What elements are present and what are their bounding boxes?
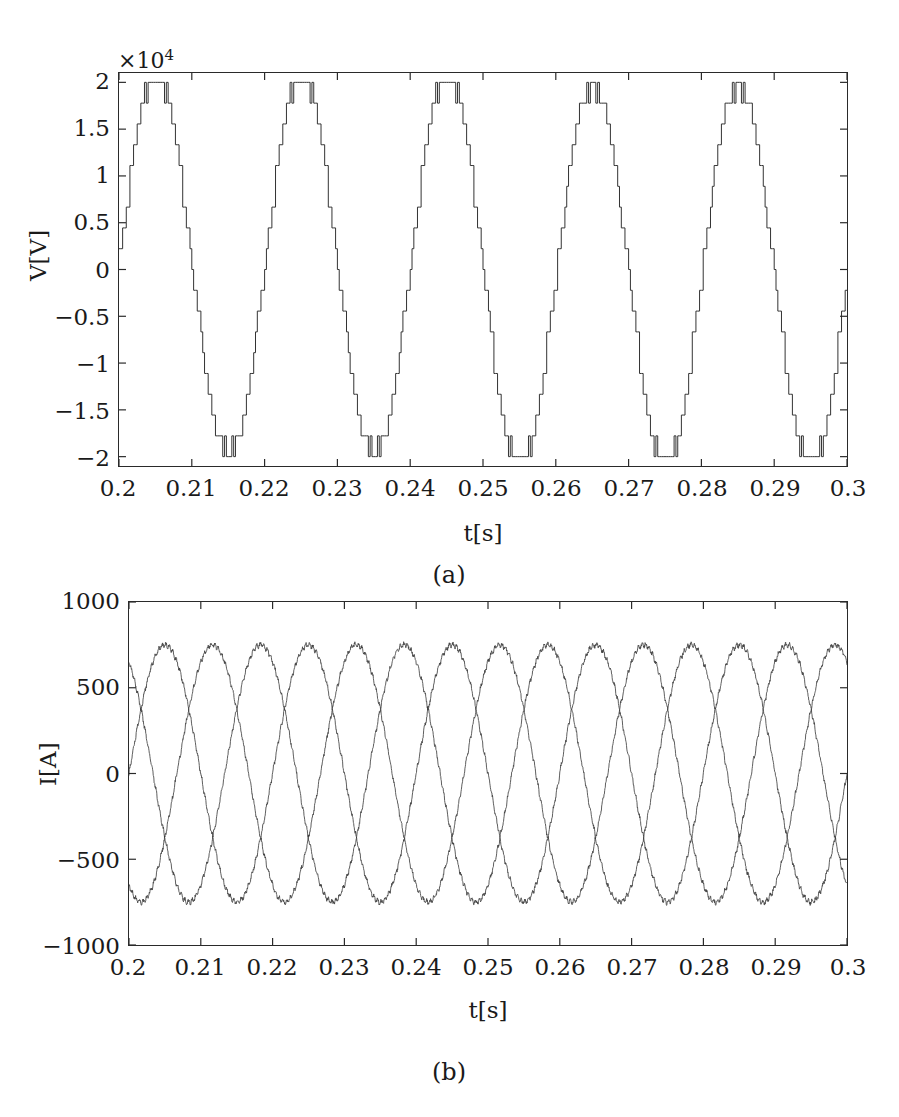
x-tick-label: 0.29 — [749, 477, 800, 500]
x-tick-label: 0.26 — [534, 956, 585, 979]
x-tick-label: 0.2 — [100, 477, 137, 500]
voltage-plot-area — [118, 72, 848, 467]
current-x-axis-title: t[s] — [469, 997, 508, 1023]
x-tick-label: 0.25 — [462, 956, 513, 979]
x-tick-label: 0.28 — [676, 477, 727, 500]
x-tick-label: 0.22 — [238, 477, 289, 500]
y-tick-label: −1 — [26, 352, 110, 375]
x-tick-label: 0.3 — [830, 956, 867, 979]
subfigure-caption-b: (b) — [432, 1058, 466, 1086]
x-tick-label: 0.22 — [246, 956, 297, 979]
y-tick-label: 500 — [36, 676, 120, 699]
y-tick-label: −1000 — [36, 935, 120, 958]
voltage-y-axis-title: V[V] — [18, 248, 58, 288]
current-waveform-svg — [129, 602, 847, 945]
figure-container: ×104 21.510.50−0.5−1−1.5−2 0.20.210.220.… — [0, 0, 899, 1117]
x-tick-label: 0.24 — [390, 956, 441, 979]
x-tick-label: 0.23 — [311, 477, 362, 500]
x-tick-label: 0.2 — [110, 956, 147, 979]
y-tick-label: −1.5 — [26, 399, 110, 422]
x-tick-label: 0.23 — [318, 956, 369, 979]
y-tick-label: 1 — [26, 164, 110, 187]
y-tick-label: 1000 — [36, 590, 120, 613]
y-tick-label: 2 — [26, 70, 110, 93]
y-axis-exponent-label: ×104 — [118, 46, 174, 73]
x-tick-label: 0.29 — [750, 956, 801, 979]
y-tick-label: −500 — [36, 848, 120, 871]
x-tick-label: 0.21 — [174, 956, 225, 979]
x-tick-label: 0.28 — [678, 956, 729, 979]
x-tick-label: 0.27 — [603, 477, 654, 500]
x-tick-label: 0.26 — [530, 477, 581, 500]
voltage-x-axis-title: t[s] — [464, 520, 503, 546]
x-tick-label: 0.21 — [165, 477, 216, 500]
current-y-axis-title: I[A] — [28, 753, 68, 793]
x-tick-label: 0.24 — [384, 477, 435, 500]
y-tick-label: −0.5 — [26, 305, 110, 328]
x-tick-label: 0.25 — [457, 477, 508, 500]
y-tick-label: −2 — [26, 446, 110, 469]
subfigure-caption-a: (a) — [432, 561, 465, 589]
current-plot-area — [128, 601, 848, 946]
x-tick-label: 0.3 — [830, 477, 867, 500]
voltage-waveform-svg — [119, 73, 847, 466]
y-tick-label: 1.5 — [26, 117, 110, 140]
x-tick-label: 0.27 — [606, 956, 657, 979]
